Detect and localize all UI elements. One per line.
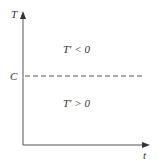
region-below-label: T′ > 0 — [63, 98, 90, 109]
phase-diagram — [0, 0, 158, 165]
region-above-label: T′ < 0 — [63, 44, 90, 55]
y-axis-arrow-icon — [20, 11, 26, 19]
x-axis-arrow-icon — [142, 142, 150, 148]
y-axis-label: T — [11, 9, 17, 20]
x-axis-label: t — [143, 150, 146, 161]
level-label: C — [10, 71, 17, 82]
